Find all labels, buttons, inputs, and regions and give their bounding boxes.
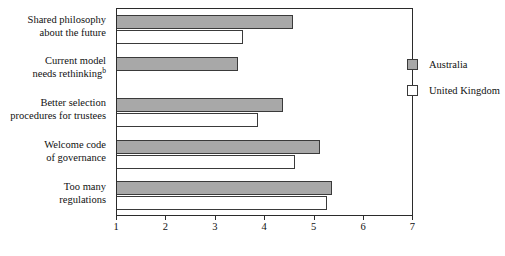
category-label-line-1: Current model [45,55,106,66]
chart-legend: Australia United Kingdom [407,53,505,105]
bar-australia [117,15,293,29]
bar-group-shared-philosophy [117,9,412,51]
x-axis-tick [314,216,315,220]
x-axis-tick-label: 6 [353,221,373,232]
x-axis-tick-label: 2 [155,221,175,232]
bar-australia [117,57,238,71]
x-axis-tick-label: 3 [205,221,225,232]
bar-australia [117,140,320,154]
bar-united-kingdom [117,196,327,210]
category-label-welcome-code: Welcome code of governance [0,139,106,164]
bar-group-welcome-code [117,134,412,176]
category-label-line-2: of governance [46,152,106,163]
bar-australia [117,98,283,112]
x-axis-tick-label: 5 [304,221,324,232]
legend-label-united-kingdom: United Kingdom [429,85,500,96]
bar-group-current-model [117,51,412,93]
category-label-line-2: procedures for trustees [10,110,106,121]
category-label-line-1: Shared philosophy [28,14,106,25]
x-axis-tick [412,216,413,220]
bar-united-kingdom [117,113,258,127]
x-axis: 1 2 3 4 5 6 7 [116,216,413,246]
category-label-line-2: regulations [59,194,106,205]
category-label-line-1: Better selection [40,97,106,108]
legend-swatch-australia-icon [407,59,418,70]
legend-label-australia: Australia [429,59,468,70]
legend-swatch-united-kingdom-icon [407,85,418,96]
category-label-line-1: Welcome code [44,139,106,150]
category-label-too-many-regulations: Too many regulations [0,181,106,206]
bar-group-better-selection [117,92,412,134]
x-axis-tick [363,216,364,220]
x-axis-tick-label: 4 [254,221,274,232]
plot-area: Australia United Kingdom [116,8,413,216]
bar-united-kingdom [117,30,243,44]
category-axis-labels: Shared philosophy about the future Curre… [0,8,112,216]
category-label-current-model: Current model needs rethinkingb [0,55,106,80]
legend-item-united-kingdom: United Kingdom [407,79,505,101]
bar-group-too-many-regulations [117,175,412,217]
x-axis-tick-label: 7 [402,221,422,232]
category-label-shared-philosophy: Shared philosophy about the future [0,14,106,39]
x-axis-tick [264,216,265,220]
bar-australia [117,181,332,195]
legend-item-australia: Australia [407,53,505,75]
category-label-line-2: needs rethinking [33,68,103,79]
x-axis-tick [215,216,216,220]
category-label-line-1: Too many [64,181,106,192]
x-axis-tick [165,216,166,220]
x-axis-tick [116,216,117,220]
category-label-better-selection: Better selection procedures for trustees [0,97,106,122]
x-axis-tick-label: 1 [106,221,126,232]
category-footnote-marker: b [102,65,106,74]
bar-united-kingdom [117,155,295,169]
category-label-line-2: about the future [40,27,106,38]
